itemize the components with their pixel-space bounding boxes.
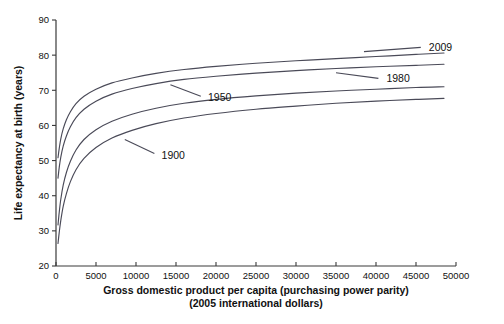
y-tick-label: 70 <box>38 85 49 96</box>
curve-1950 <box>58 87 444 225</box>
y-tick-label: 40 <box>38 190 49 201</box>
series-leader-lines <box>125 47 421 153</box>
y-tick-label: 80 <box>38 50 49 61</box>
x-axis-tick-labels: 0500010000150002000025000300003500040000… <box>53 270 469 281</box>
x-tick-label: 45000 <box>403 270 429 281</box>
series-label-2009: 2009 <box>429 41 453 53</box>
y-tick-label: 50 <box>38 155 49 166</box>
x-tick-label: 10000 <box>123 270 149 281</box>
x-tick-label: 30000 <box>283 270 309 281</box>
y-axis-title: Life expectancy at birth (years) <box>12 66 24 221</box>
x-tick-label: 15000 <box>163 270 189 281</box>
y-tick-label: 60 <box>38 120 49 131</box>
x-tick-label: 50000 <box>443 270 469 281</box>
x-tick-label: 35000 <box>323 270 349 281</box>
y-tick-label: 30 <box>38 225 49 236</box>
y-tick-label: 20 <box>38 260 49 271</box>
leader-line-2009 <box>364 47 421 51</box>
x-axis-title: Gross domestic product per capita (purch… <box>103 284 409 296</box>
curve-2009 <box>58 53 444 158</box>
x-tick-label: 5000 <box>85 270 106 281</box>
x-tick-label: 40000 <box>363 270 389 281</box>
chart-container: 2030405060708090 05000100001500020000250… <box>0 0 504 324</box>
series-label-1950: 1950 <box>208 91 232 103</box>
leader-line-1950 <box>170 85 200 97</box>
preston-curve-chart: 2030405060708090 05000100001500020000250… <box>0 0 504 324</box>
x-tick-label: 20000 <box>203 270 229 281</box>
x-axis-title-line2: (2005 international dollars) <box>189 297 323 309</box>
leader-line-1980 <box>336 73 378 79</box>
x-tick-label: 25000 <box>243 270 269 281</box>
y-axis-tick-labels: 2030405060708090 <box>38 14 49 271</box>
leader-line-1900 <box>125 139 155 153</box>
series-label-1980: 1980 <box>386 72 410 84</box>
x-tick-label: 0 <box>53 270 58 281</box>
y-tick-label: 90 <box>38 14 49 25</box>
series-label-1900: 1900 <box>162 149 186 161</box>
